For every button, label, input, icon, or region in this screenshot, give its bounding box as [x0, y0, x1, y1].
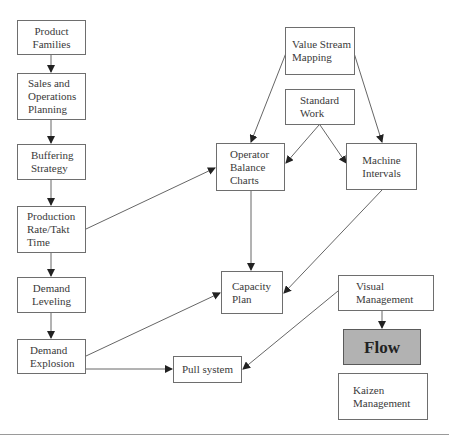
edge-standard-to-machine — [320, 125, 346, 163]
node-pull-system: Pull system — [173, 356, 242, 383]
edge-explosion-to-capacity — [86, 293, 220, 356]
node-machine-intervals: Machine Intervals — [346, 143, 417, 190]
node-label: Pull system — [182, 363, 233, 376]
node-label: Demand Leveling — [32, 282, 71, 308]
node-label: Buffering Strategy — [31, 149, 74, 175]
node-label: Flow — [364, 341, 400, 354]
node-demand-explosion: Demand Explosion — [17, 339, 86, 374]
node-label: Demand Explosion — [30, 344, 75, 370]
node-label: Kaizen Management — [353, 384, 410, 410]
node-label: Capacity Plan — [232, 280, 271, 306]
bottom-divider — [0, 434, 449, 435]
node-label: Sales and Operations Planning — [28, 77, 76, 116]
edge-production-to-operator — [86, 168, 215, 229]
node-product-families: Product Families — [17, 20, 86, 55]
edge-standard-to-operator — [286, 125, 319, 163]
node-label: Product Families — [33, 25, 71, 51]
edge-vsm-to-operator — [251, 53, 286, 142]
node-demand-leveling: Demand Leveling — [17, 277, 86, 313]
node-label: Machine Intervals — [362, 154, 400, 180]
node-label: Production Rate/Takt Time — [27, 210, 75, 249]
node-production-rate-takt-time: Production Rate/Takt Time — [17, 206, 86, 253]
node-label: Operator Balance Charts — [230, 148, 269, 187]
edge-vsm-to-machine — [354, 53, 382, 142]
node-label: Value Stream Mapping — [292, 38, 351, 64]
node-standard-work: Standard Work — [285, 89, 355, 125]
node-operator-balance-charts: Operator Balance Charts — [216, 143, 285, 191]
node-value-stream-mapping: Value Stream Mapping — [285, 27, 355, 75]
node-kaizen-management: Kaizen Management — [338, 373, 428, 420]
node-sales-operations-planning: Sales and Operations Planning — [17, 73, 86, 120]
node-visual-management: Visual Management — [338, 275, 434, 311]
node-capacity-plan: Capacity Plan — [221, 271, 283, 314]
node-label: Standard Work — [300, 94, 339, 120]
node-buffering-strategy: Buffering Strategy — [17, 144, 86, 180]
node-label: Visual Management — [356, 280, 413, 306]
node-flow: Flow — [343, 329, 421, 365]
